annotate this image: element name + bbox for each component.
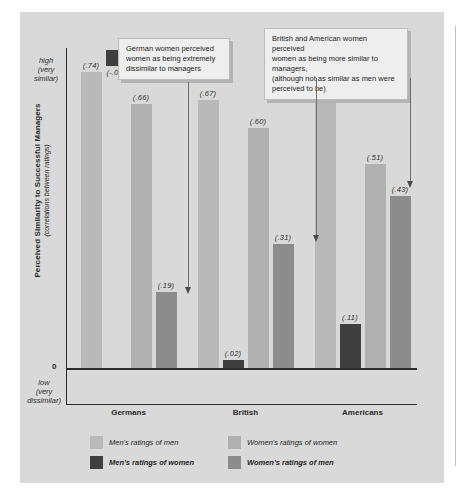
bar-value-label: (.66) [133, 93, 149, 102]
figure-page: high (very similar) 0 low (very dissimil… [0, 0, 463, 497]
chart-legend: Men's ratings of menMen's ratings of wom… [90, 436, 410, 476]
bar-value-label: (.60) [250, 117, 266, 126]
legend-label: Women's ratings of women [247, 438, 337, 447]
legend-swatch [228, 456, 241, 469]
callout-ba-line1: British and American women perceived [272, 34, 401, 54]
bar: (.74) [81, 72, 102, 368]
bar-value-label: (.67) [200, 89, 216, 98]
callout-germans-line2: women as being extremely [126, 54, 223, 64]
cropped-header-text [38, 0, 238, 10]
legend-label: Men's ratings of women [109, 458, 194, 467]
legend-swatch [90, 436, 103, 449]
bar-value-label: (.51) [367, 153, 383, 162]
legend-label: Women's ratings of men [247, 458, 334, 467]
bar-group-item: (.19) [156, 48, 177, 368]
y-axis-zero-label: 0 [52, 362, 56, 371]
callout-british-americans: British and American women perceived wom… [264, 28, 408, 100]
y-axis-low-line1: low [38, 378, 49, 387]
x-axis-zero-line [66, 368, 417, 370]
callout-arrow-british [316, 78, 317, 236]
bar: (.19) [156, 292, 177, 368]
legend-item: Men's ratings of women [90, 456, 194, 469]
bar-value-label: (.31) [275, 233, 291, 242]
callout-germans: German women perceived women as being ex… [118, 38, 230, 80]
bar: (.31) [273, 244, 294, 368]
y-axis-high-line3: similar) [34, 74, 58, 83]
legend-label: Men's ratings of men [109, 438, 178, 447]
chart-figure-inner: high (very similar) 0 low (very dissimil… [20, 12, 444, 483]
y-axis-title: Perceived Similarity to Successful Manag… [33, 96, 50, 286]
y-axis-high-line1: high [39, 56, 53, 65]
bar-value-label: (.19) [158, 281, 174, 290]
bar: (.60) [248, 128, 269, 368]
bar-group-item: (-.04) [106, 48, 127, 368]
bar-group-item: (.74) [81, 48, 102, 368]
bar: (.02) [223, 360, 244, 368]
y-axis-low-line3: dissimilar) [27, 396, 61, 405]
y-axis-high-label: high (very similar) [26, 56, 66, 83]
legend-swatch [228, 436, 241, 449]
bar: (.11) [340, 324, 361, 368]
bar: (.51) [365, 164, 386, 368]
bar-group-item: (.67) [198, 48, 219, 368]
legend-item: Women's ratings of women [228, 436, 337, 449]
chart-figure-panel: high (very similar) 0 low (very dissimil… [20, 12, 444, 483]
callout-arrow-americans [410, 78, 411, 182]
bar-group-item: (.66) [131, 48, 152, 368]
bar-value-label: (.11) [342, 313, 358, 322]
y-axis-high-line2: (very [38, 65, 55, 74]
y-axis-title-main: Perceived Similarity to Successful Manag… [33, 96, 42, 286]
x-axis-category-germans: Germans [111, 408, 146, 417]
bar: (.70) [315, 88, 336, 368]
page-top-strip [0, 0, 463, 12]
legend-swatch [90, 456, 103, 469]
y-axis-low-line2: (very [36, 387, 53, 396]
bar: (.43) [390, 196, 411, 368]
y-axis-low-label: low (very dissimilar) [22, 378, 66, 405]
callout-germans-line3: dissimilar to managers [126, 64, 223, 74]
x-axis-category-labels: GermansBritishAmericans [66, 408, 417, 424]
bar-group-item: (.02) [223, 48, 244, 368]
callout-ba-line3: (although not as similar as men were [272, 74, 401, 84]
bar-value-label: (.43) [392, 185, 408, 194]
bar-value-label: (.02) [225, 349, 241, 358]
x-axis-category-americans: Americans [342, 408, 383, 417]
callout-germans-line1: German women perceived [126, 44, 223, 54]
x-axis-baseline [66, 404, 417, 405]
legend-item: Women's ratings of men [228, 456, 334, 469]
callout-arrow-germans [188, 82, 189, 288]
callout-ba-line2: women as being more similar to managers, [272, 54, 401, 74]
bar: (.66) [131, 104, 152, 368]
legend-item: Men's ratings of men [90, 436, 178, 449]
bar: (.67) [198, 100, 219, 368]
page-right-rule [455, 26, 456, 466]
y-axis-title-sub: (correlations between ratings) [43, 96, 50, 286]
x-axis-category-british: British [233, 408, 258, 417]
callout-ba-line4: perceived to be) [272, 84, 401, 94]
bar-value-label: (.74) [83, 61, 99, 70]
